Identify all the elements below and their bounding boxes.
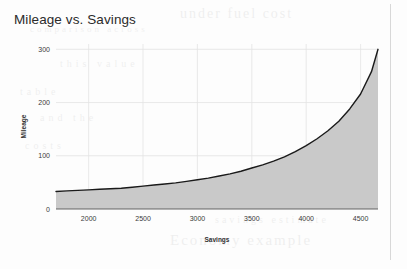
svg-text:2000: 2000 bbox=[81, 215, 97, 222]
chart-plot-area: 2000250030003500400045000100200300 Savin… bbox=[0, 0, 407, 269]
svg-text:3500: 3500 bbox=[244, 215, 260, 222]
chart-svg: 2000250030003500400045000100200300 Savin… bbox=[0, 0, 407, 269]
svg-text:0: 0 bbox=[46, 206, 50, 213]
svg-text:4000: 4000 bbox=[298, 215, 314, 222]
svg-text:100: 100 bbox=[38, 152, 50, 159]
svg-text:Savings: Savings bbox=[205, 236, 230, 244]
svg-text:3000: 3000 bbox=[190, 215, 206, 222]
svg-text:Mileage: Mileage bbox=[20, 114, 28, 138]
svg-text:4500: 4500 bbox=[353, 215, 369, 222]
svg-text:200: 200 bbox=[38, 99, 50, 106]
svg-text:2500: 2500 bbox=[135, 215, 151, 222]
chart-page: under fuel cost comparison across this v… bbox=[0, 0, 407, 269]
svg-text:300: 300 bbox=[38, 46, 50, 53]
